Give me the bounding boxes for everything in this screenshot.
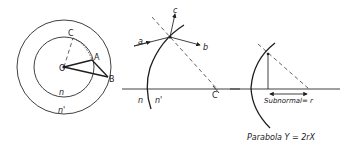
label-a: A: [94, 53, 100, 62]
panel-parabola: Subnormal= r Parabola Y = 2rX: [230, 43, 340, 142]
label-n-right: n': [155, 96, 162, 105]
line-o-a: [64, 60, 92, 67]
optics-diagram: C O A B n n' a b c C n n' Subnormal= r P…: [0, 0, 354, 147]
label-c: C: [68, 29, 74, 38]
normal-dashed: [258, 44, 309, 89]
normal-dashed: [152, 17, 218, 90]
label-center-c: C: [212, 91, 218, 100]
label-n-prime: n': [58, 106, 65, 115]
refracting-surface: [147, 25, 184, 109]
label-c-ray: c: [173, 6, 178, 15]
incidence-point: [169, 36, 172, 39]
curve-point: [267, 53, 270, 56]
label-b: B: [109, 75, 115, 84]
label-n-left: n: [138, 96, 143, 105]
ray-b: [170, 37, 200, 45]
arc-c-a: [73, 38, 92, 60]
label-a-ray: a: [138, 37, 143, 46]
label-n: n: [59, 88, 64, 97]
line-o-b: [64, 67, 108, 77]
line-o-c: [64, 38, 73, 67]
parabola-caption: Parabola Y = 2rX: [247, 133, 316, 142]
panel-refraction: a b c C n n': [122, 6, 240, 109]
panel-concentric-circles: C O A B n n': [17, 20, 115, 115]
subnormal-label: Subnormal= r: [264, 97, 314, 105]
label-b-ray: b: [203, 43, 208, 52]
label-o: O: [59, 64, 65, 73]
